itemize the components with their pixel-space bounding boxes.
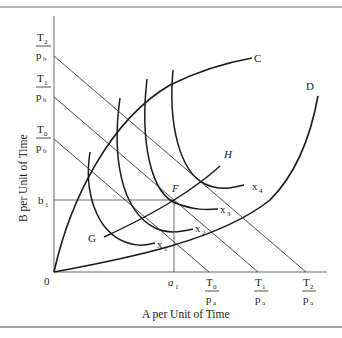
svg-text:x: x [157, 238, 163, 250]
isoquant-x1 [88, 152, 155, 245]
svg-text:T: T [255, 276, 262, 288]
isoquant-x3 [145, 79, 218, 209]
svg-text:b: b [38, 194, 44, 206]
svg-text:3: 3 [227, 210, 231, 218]
x-axis-title: A per Unit of Time [142, 308, 230, 321]
svg-text:b: b [43, 96, 47, 104]
svg-text:2: 2 [202, 229, 206, 237]
svg-text:a: a [168, 276, 174, 288]
svg-text:p: p [303, 293, 309, 305]
svg-text:4: 4 [259, 187, 263, 195]
svg-text:p: p [255, 293, 261, 305]
y-tick-t1-pb: T 1 p b [36, 72, 51, 104]
svg-text:T: T [37, 123, 44, 135]
svg-text:a: a [262, 299, 266, 307]
curve-0D [54, 96, 318, 272]
svg-text:2: 2 [310, 283, 314, 291]
label-F: F [171, 182, 179, 194]
svg-text:p: p [36, 90, 42, 102]
svg-text:1: 1 [45, 201, 49, 209]
label-D: D [306, 80, 314, 92]
svg-text:T: T [37, 72, 44, 84]
svg-text:x: x [195, 222, 201, 234]
svg-text:1: 1 [175, 283, 179, 291]
svg-text:p: p [206, 293, 212, 305]
svg-text:a: a [213, 299, 217, 307]
y-tick-b1: b 1 [38, 194, 49, 209]
svg-text:1: 1 [44, 79, 48, 87]
y-tick-t0-pb: T 0 p b [36, 123, 51, 155]
svg-text:b: b [43, 55, 47, 63]
svg-text:T: T [206, 276, 213, 288]
label-x2: x 2 [195, 222, 206, 237]
label-x3: x 3 [220, 203, 231, 218]
svg-text:1: 1 [262, 283, 266, 291]
svg-text:x: x [252, 180, 258, 192]
svg-text:p: p [36, 49, 42, 61]
svg-text:p: p [36, 141, 42, 153]
svg-text:T: T [37, 31, 44, 43]
y-tick-t2-pb: T 2 p b [36, 31, 51, 63]
x-tick-t1-pa: T 1 p a [254, 276, 268, 307]
svg-text:1: 1 [164, 245, 168, 253]
label-x1: x 1 [157, 238, 168, 253]
svg-text:b: b [43, 147, 47, 155]
svg-text:0: 0 [213, 283, 217, 291]
x-tick-a1: a 1 [168, 276, 179, 291]
production-diagram: T 2 p b T 1 p b T 0 p b b 1 0 a 1 T 0 p … [0, 0, 342, 338]
label-C: C [254, 52, 261, 64]
svg-text:0: 0 [44, 130, 48, 138]
svg-text:a: a [310, 299, 314, 307]
x-tick-t2-pa: T 2 p a [302, 276, 316, 307]
svg-text:2: 2 [44, 38, 48, 46]
y-axis-title: B per Unit of Time [17, 134, 30, 222]
label-G: G [88, 232, 96, 244]
label-x4: x 4 [252, 180, 263, 195]
x-tick-t0-pa: T 0 p a [205, 276, 219, 307]
label-H: H [223, 148, 233, 160]
svg-text:x: x [220, 203, 226, 215]
svg-text:T: T [303, 276, 310, 288]
isoquant-x4 [172, 70, 244, 188]
origin-label: 0 [44, 275, 50, 287]
